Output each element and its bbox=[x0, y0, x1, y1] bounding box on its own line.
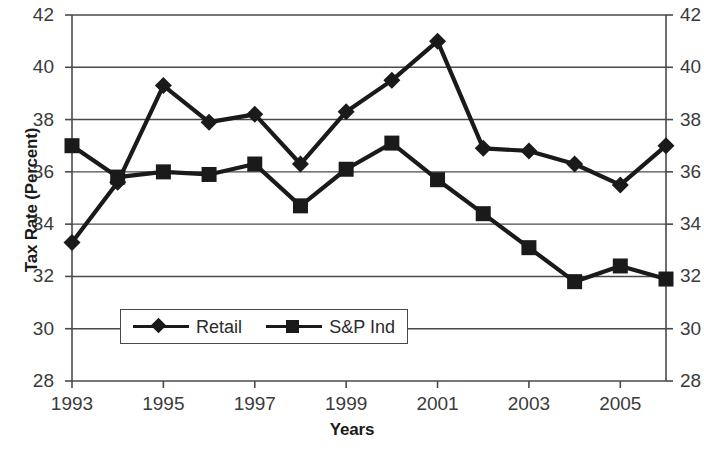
y-tick-label-left-38: 38 bbox=[14, 110, 54, 129]
data-point-retail-2004 bbox=[566, 156, 583, 173]
x-tick-label-2003: 2003 bbox=[494, 394, 564, 413]
data-point-s-p-ind-1999 bbox=[339, 162, 354, 177]
x-tick-label-1999: 1999 bbox=[311, 394, 381, 413]
legend-label-sp-ind: S&P Ind bbox=[329, 318, 395, 336]
plot-area bbox=[0, 0, 704, 450]
data-point-s-p-ind-2002 bbox=[476, 206, 491, 221]
x-tick-label-1995: 1995 bbox=[128, 394, 198, 413]
data-point-retail-2003 bbox=[520, 142, 537, 159]
series-markers bbox=[64, 33, 675, 290]
x-axis-ticks bbox=[72, 381, 620, 388]
y-tick-label-right-40: 40 bbox=[680, 57, 704, 76]
diamond-marker-icon bbox=[133, 318, 189, 336]
square-marker-icon bbox=[266, 318, 322, 336]
y-tick-label-right-28: 28 bbox=[680, 371, 704, 390]
y-tick-label-left-28: 28 bbox=[14, 371, 54, 390]
data-point-s-p-ind-1997 bbox=[247, 157, 262, 172]
y-tick-label-left-36: 36 bbox=[14, 162, 54, 181]
data-point-s-p-ind-2005 bbox=[613, 258, 628, 273]
x-tick-label-1993: 1993 bbox=[37, 394, 107, 413]
x-tick-label-1997: 1997 bbox=[220, 394, 290, 413]
y-tick-label-right-34: 34 bbox=[680, 214, 704, 233]
data-point-s-p-ind-1998 bbox=[293, 198, 308, 213]
y-tick-label-left-30: 30 bbox=[14, 319, 54, 338]
data-point-s-p-ind-1993 bbox=[65, 138, 80, 153]
data-point-s-p-ind-2001 bbox=[430, 172, 445, 187]
y-tick-label-right-32: 32 bbox=[680, 266, 704, 285]
data-point-s-p-ind-1994 bbox=[110, 170, 125, 185]
data-point-s-p-ind-1995 bbox=[156, 164, 171, 179]
data-point-retail-2002 bbox=[475, 140, 492, 157]
y-tick-label-left-42: 42 bbox=[14, 5, 54, 24]
y-tick-label-right-36: 36 bbox=[680, 162, 704, 181]
data-point-s-p-ind-2006 bbox=[659, 272, 674, 287]
y-tick-label-right-42: 42 bbox=[680, 5, 704, 24]
x-tick-label-2001: 2001 bbox=[403, 394, 473, 413]
data-point-s-p-ind-2004 bbox=[567, 274, 582, 289]
chart-legend: Retail S&P Ind bbox=[120, 309, 408, 344]
data-point-s-p-ind-1996 bbox=[202, 167, 217, 182]
data-point-s-p-ind-2003 bbox=[521, 240, 536, 255]
y-tick-label-left-32: 32 bbox=[14, 266, 54, 285]
legend-item-retail: Retail bbox=[133, 318, 242, 336]
legend-label-retail: Retail bbox=[196, 318, 242, 336]
legend-item-sp-ind: S&P Ind bbox=[266, 318, 395, 336]
data-point-s-p-ind-2000 bbox=[384, 136, 399, 151]
y-tick-label-left-40: 40 bbox=[14, 57, 54, 76]
y-tick-label-right-38: 38 bbox=[680, 110, 704, 129]
x-tick-label-2005: 2005 bbox=[585, 394, 655, 413]
tax-rate-line-chart: Tax Rate (Percent) Years 283032343638404… bbox=[0, 0, 704, 450]
y-tick-label-right-30: 30 bbox=[680, 319, 704, 338]
y-tick-label-left-34: 34 bbox=[14, 214, 54, 233]
